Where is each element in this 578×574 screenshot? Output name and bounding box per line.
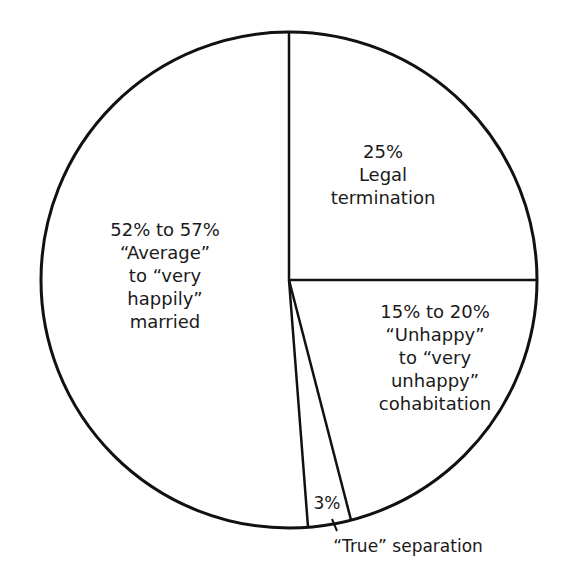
slice-text: married: [75, 310, 255, 333]
slice-label-happily-married: 52% to 57% “Average” to “very happily” m…: [75, 218, 255, 333]
slice-text: “Average”: [75, 241, 255, 264]
slice-label-true-separation-caption: “True” separation: [318, 535, 498, 558]
slice-text: unhappy”: [355, 369, 515, 392]
slice-text: “Unhappy”: [355, 323, 515, 346]
slice-value: 25%: [308, 140, 458, 163]
slice-label-unhappy-cohabitation: 15% to 20% “Unhappy” to “very unhappy” c…: [355, 300, 515, 415]
slice-text: to “very: [75, 264, 255, 287]
slice-text: to “very: [355, 346, 515, 369]
slice-text: termination: [308, 186, 458, 209]
slice-label-legal-termination: 25% Legal termination: [308, 140, 458, 209]
slice-text: cohabitation: [355, 392, 515, 415]
slice-value: 15% to 20%: [355, 300, 515, 323]
slice-value: 52% to 57%: [75, 218, 255, 241]
slice-text: happily”: [75, 287, 255, 310]
slice-label-true-separation-value: 3%: [307, 492, 347, 515]
slice-text: Legal: [308, 163, 458, 186]
